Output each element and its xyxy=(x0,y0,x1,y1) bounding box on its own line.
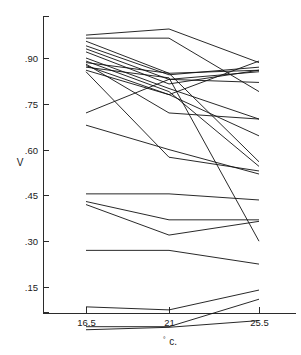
series-line xyxy=(86,70,259,136)
series-line xyxy=(86,202,259,220)
x-axis-title-text: c. xyxy=(167,336,178,347)
tick-marks-group xyxy=(43,17,260,314)
x-tick-label: 25.5 xyxy=(250,317,269,328)
y-tick-label: .15 xyxy=(25,282,38,293)
chart-figure: .15.30.45.60.75.90 16.52125.5 V ° c. xyxy=(0,0,301,355)
x-tick-label: 16.5 xyxy=(77,317,96,328)
y-tick-label: .75 xyxy=(25,99,38,110)
y-tick-labels-group: .15.30.45.60.75.90 xyxy=(25,53,38,293)
degree-symbol: ° xyxy=(163,336,166,343)
data-series-group xyxy=(86,29,259,330)
x-axis-title: ° c. xyxy=(163,336,177,348)
y-tick-label: .45 xyxy=(25,190,38,201)
y-tick-label: .60 xyxy=(25,145,38,156)
y-tick-label: .30 xyxy=(25,236,38,247)
series-line xyxy=(86,58,259,119)
y-tick-label: .90 xyxy=(25,53,38,64)
series-line xyxy=(86,72,259,171)
profile-line-chart: .15.30.45.60.75.90 16.52125.5 V ° c. xyxy=(0,0,301,355)
x-tick-label: 21 xyxy=(164,317,175,328)
axes-group xyxy=(43,16,296,313)
series-line xyxy=(86,125,259,174)
series-line xyxy=(86,29,259,63)
series-line xyxy=(86,250,259,264)
series-line xyxy=(86,64,259,119)
series-line xyxy=(86,41,259,73)
y-axis-title: V xyxy=(17,157,24,168)
